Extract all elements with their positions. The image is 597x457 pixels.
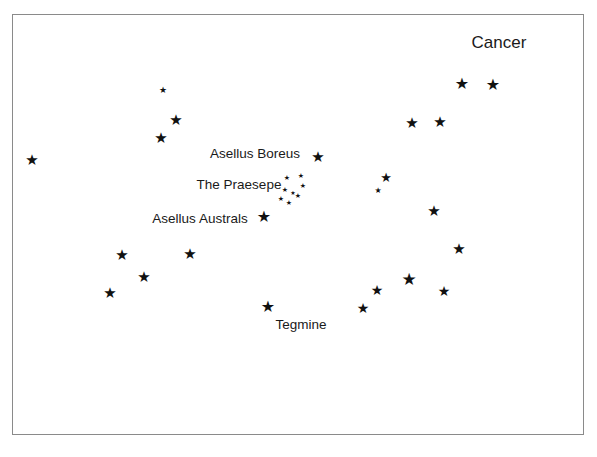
- star-marker: ★: [433, 115, 446, 130]
- star-marker: ★: [380, 171, 392, 184]
- star-marker: ★: [295, 193, 301, 200]
- star-marker: ★: [183, 247, 196, 262]
- star-marker: ★: [25, 153, 38, 168]
- star-marker: ★: [282, 187, 288, 194]
- star-marker: ★: [137, 270, 150, 285]
- star-marker: ★: [455, 76, 469, 92]
- star-marker: ★: [371, 283, 384, 297]
- star-marker: ★: [452, 242, 465, 257]
- star-marker: ★: [374, 187, 381, 195]
- the-praesepe-label: The Praesepe: [197, 178, 282, 192]
- star-marker: ★: [300, 183, 306, 190]
- asellus-boreus-label: Asellus Boreus: [210, 147, 300, 161]
- constellation-chart: ★★★★★★★★★★★★★★★★★★★★★★★★★★★★★★★ CancerAs…: [0, 0, 597, 457]
- star-marker: ★: [154, 131, 167, 146]
- star-marker: ★: [286, 200, 292, 207]
- star-marker: ★: [405, 116, 418, 131]
- star-marker: ★: [290, 190, 295, 196]
- star-marker: ★: [284, 175, 290, 182]
- star-marker: ★: [438, 284, 451, 298]
- title: Cancer: [472, 34, 527, 51]
- star-marker: ★: [401, 271, 416, 288]
- asellus-australis-label: Asellus Australs: [152, 212, 247, 226]
- star-marker: ★: [311, 150, 324, 165]
- star-marker: ★: [357, 301, 370, 315]
- star-marker: ★: [261, 299, 275, 315]
- star-marker: ★: [159, 86, 167, 95]
- star-marker: ★: [103, 286, 116, 301]
- star-marker: ★: [298, 173, 304, 180]
- star-marker: ★: [115, 248, 128, 263]
- star-marker: ★: [278, 196, 284, 203]
- star-marker: ★: [486, 77, 500, 93]
- star-marker: ★: [257, 209, 271, 225]
- star-marker: ★: [169, 113, 182, 128]
- tegmine-label: Tegmine: [275, 318, 326, 332]
- star-marker: ★: [427, 204, 440, 219]
